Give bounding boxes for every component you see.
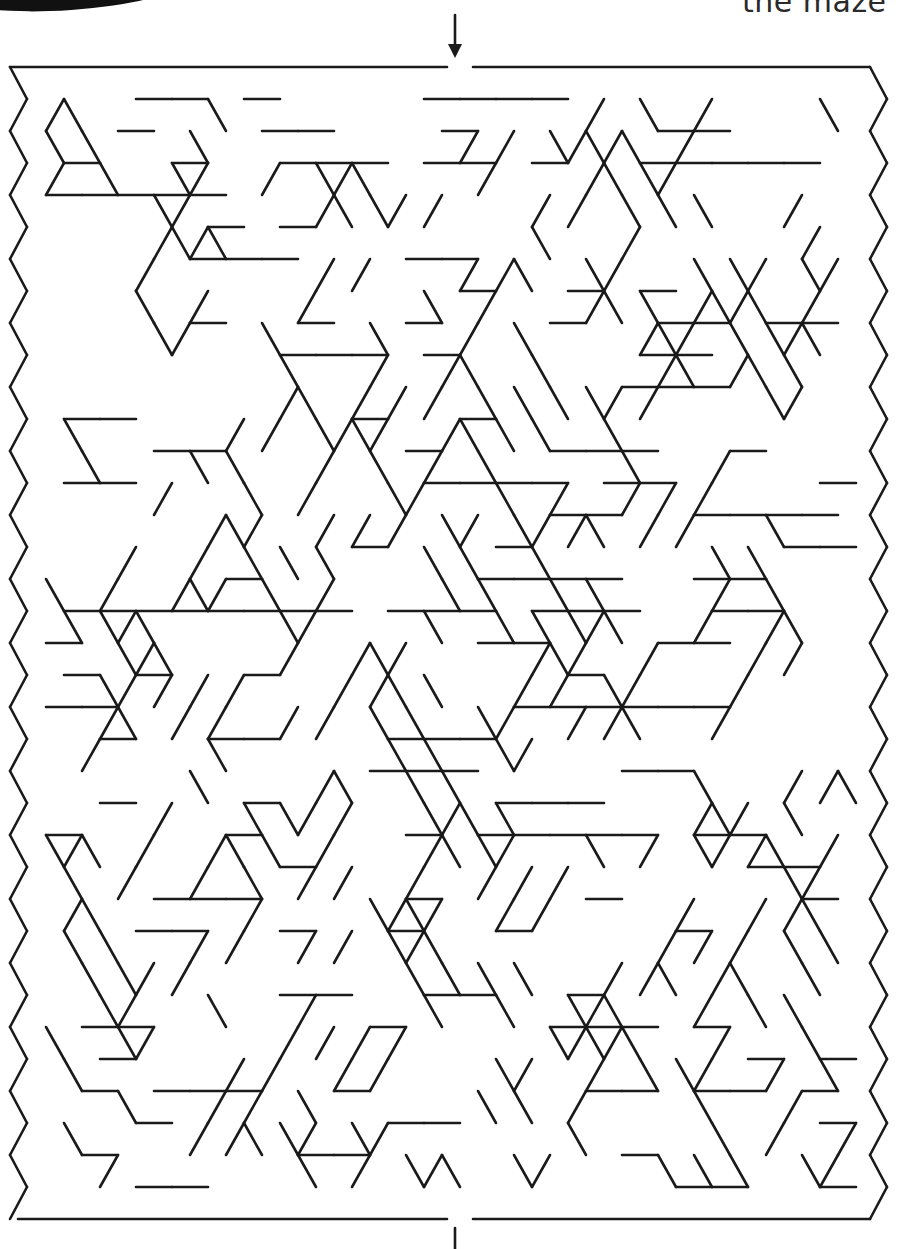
maze-border-right bbox=[870, 707, 887, 739]
maze-wall bbox=[424, 387, 442, 419]
maze-wall bbox=[298, 931, 316, 963]
maze-wall bbox=[370, 355, 388, 387]
maze-wall bbox=[694, 803, 712, 835]
maze-wall bbox=[136, 611, 154, 643]
maze-wall bbox=[334, 419, 352, 451]
maze-canvas[interactable] bbox=[0, 0, 900, 1249]
maze-wall bbox=[478, 835, 496, 867]
maze-wall bbox=[406, 707, 424, 739]
maze-wall bbox=[100, 611, 118, 643]
maze-wall bbox=[748, 291, 766, 323]
maze-wall bbox=[424, 195, 442, 227]
maze-wall bbox=[694, 291, 712, 323]
maze-wall bbox=[424, 995, 442, 1027]
maze-wall bbox=[370, 451, 388, 483]
maze-wall bbox=[118, 1027, 136, 1059]
maze-wall bbox=[478, 387, 496, 419]
maze-wall bbox=[388, 195, 406, 227]
maze-wall bbox=[262, 163, 280, 195]
maze-wall bbox=[100, 707, 118, 739]
maze-wall bbox=[370, 899, 388, 931]
maze-wall bbox=[244, 483, 262, 515]
maze-wall bbox=[262, 419, 280, 451]
maze-wall bbox=[100, 675, 118, 707]
maze-wall bbox=[712, 1123, 730, 1155]
maze-wall bbox=[712, 291, 730, 323]
maze-wall bbox=[532, 547, 550, 579]
maze-border-right bbox=[870, 995, 887, 1027]
maze-wall bbox=[442, 835, 460, 867]
maze-wall bbox=[424, 1155, 442, 1187]
maze-wall bbox=[244, 547, 262, 579]
maze-wall bbox=[640, 323, 658, 355]
maze-wall bbox=[208, 1091, 226, 1123]
maze-border-left bbox=[10, 675, 27, 707]
maze-wall bbox=[748, 355, 766, 387]
maze-wall bbox=[784, 195, 802, 227]
maze-wall bbox=[280, 355, 298, 387]
maze-wall bbox=[316, 195, 334, 227]
maze-wall bbox=[802, 963, 820, 995]
maze-wall bbox=[586, 131, 604, 163]
maze-wall bbox=[154, 323, 172, 355]
maze-wall bbox=[352, 1155, 370, 1187]
maze-border-left bbox=[10, 963, 27, 995]
maze-wall bbox=[640, 1059, 658, 1091]
maze-border-left bbox=[10, 995, 27, 1027]
maze-wall bbox=[604, 163, 622, 195]
maze-wall bbox=[262, 579, 280, 611]
maze-wall bbox=[154, 643, 172, 675]
maze-wall bbox=[406, 771, 424, 803]
maze-wall bbox=[460, 355, 478, 387]
maze-border-left bbox=[10, 803, 27, 835]
maze-wall bbox=[370, 675, 388, 707]
maze-wall bbox=[514, 739, 532, 771]
maze-wall bbox=[640, 963, 658, 995]
maze-wall bbox=[334, 803, 352, 835]
maze-wall bbox=[442, 771, 460, 803]
maze-wall bbox=[352, 515, 370, 547]
maze-wall bbox=[226, 1059, 244, 1091]
maze-wall bbox=[298, 1091, 316, 1123]
maze-wall bbox=[622, 451, 640, 483]
maze-border-left bbox=[10, 643, 27, 675]
maze-wall bbox=[604, 131, 622, 163]
maze-wall bbox=[280, 387, 298, 419]
maze-wall bbox=[496, 483, 514, 515]
maze-wall bbox=[532, 899, 550, 931]
maze-wall bbox=[622, 1027, 640, 1059]
maze[interactable] bbox=[0, 0, 900, 1249]
maze-wall bbox=[802, 227, 820, 259]
maze-wall bbox=[100, 995, 118, 1027]
maze-wall bbox=[586, 835, 604, 867]
maze-wall bbox=[424, 835, 442, 867]
maze-wall bbox=[478, 451, 496, 483]
maze-wall bbox=[298, 867, 316, 899]
maze-wall bbox=[730, 1155, 748, 1187]
maze-wall bbox=[712, 547, 730, 579]
maze-wall bbox=[460, 515, 478, 547]
maze-border-right bbox=[870, 1059, 887, 1091]
maze-wall bbox=[118, 643, 136, 675]
maze-wall bbox=[316, 515, 334, 547]
maze-border-left bbox=[10, 451, 27, 483]
maze-wall bbox=[568, 995, 586, 1027]
maze-wall bbox=[442, 963, 460, 995]
maze-walls bbox=[10, 15, 887, 1249]
maze-border-right bbox=[870, 99, 887, 131]
maze-wall bbox=[388, 739, 406, 771]
maze-wall bbox=[676, 355, 694, 387]
maze-wall bbox=[748, 259, 766, 291]
maze-border-right bbox=[870, 803, 887, 835]
maze-wall bbox=[532, 195, 550, 227]
maze-wall bbox=[424, 291, 442, 323]
maze-wall bbox=[424, 611, 442, 643]
maze-wall bbox=[190, 867, 208, 899]
maze-wall bbox=[658, 931, 676, 963]
maze-wall bbox=[478, 867, 496, 899]
maze-wall bbox=[136, 1027, 154, 1059]
maze-wall bbox=[154, 803, 172, 835]
maze-wall bbox=[442, 355, 460, 387]
maze-wall bbox=[748, 899, 766, 931]
maze-wall bbox=[784, 803, 802, 835]
